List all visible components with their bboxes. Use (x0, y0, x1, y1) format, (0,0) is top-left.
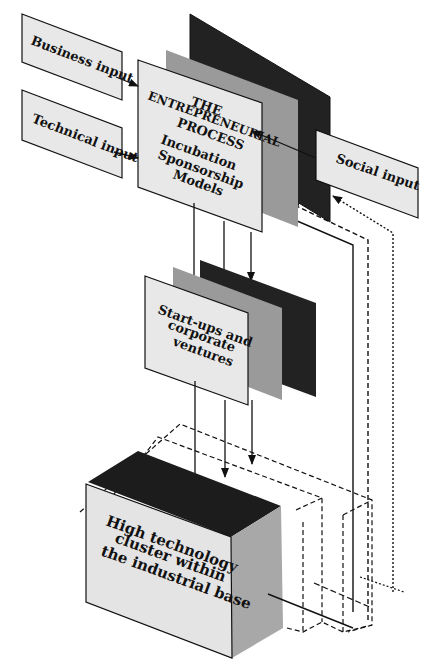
business-input-box: Business input (22, 14, 136, 100)
diagram-canvas: Business input Technical input Social in… (0, 0, 435, 671)
social-input-box: Social input (316, 130, 422, 218)
ventures-stack: Start-ups and corporate ventures (145, 260, 316, 405)
cluster-block: High technology cluster within the indus… (86, 451, 283, 658)
technical-input-box: Technical input (22, 90, 141, 178)
